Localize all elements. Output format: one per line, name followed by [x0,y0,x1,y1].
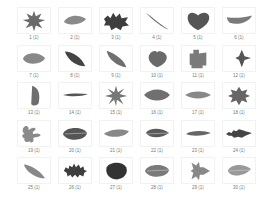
leaf-tile[interactable]: 14 (1) [55,81,95,119]
leaf-thumbnail[interactable] [99,157,133,184]
leaf-label: 5 (1) [178,35,218,40]
leaf-tile[interactable]: 12 (1) [219,44,259,82]
leaf-label: 17 (1) [178,110,218,115]
leaf-tile[interactable]: 29 (1) [178,156,218,194]
leaf-thumbnail[interactable] [181,45,215,72]
leaf-tile[interactable]: 24 (1) [219,119,259,157]
leaf-icon [223,46,255,71]
leaf-label: 29 (1) [178,185,218,190]
leaf-tile[interactable]: 7 (1) [14,44,54,82]
leaf-label: 16 (1) [137,110,177,115]
leaf-label: 27 (1) [96,185,136,190]
leaf-thumbnail[interactable] [140,45,174,72]
leaf-tile[interactable]: 15 (1) [96,81,136,119]
leaf-tile[interactable]: 26 (1) [55,156,95,194]
leaf-thumbnail[interactable] [222,82,256,109]
leaf-icon [223,83,255,108]
leaf-icon [18,83,50,108]
leaf-label: 13 (1) [14,110,54,115]
leaf-thumbnail[interactable] [17,45,51,72]
leaf-label: 6 (1) [219,35,259,40]
leaf-thumbnail[interactable] [140,120,174,147]
leaf-thumbnail[interactable] [140,7,174,34]
leaf-tile[interactable]: 13 (1) [14,81,54,119]
leaf-thumbnail[interactable] [58,82,92,109]
leaf-tile[interactable]: 23 (1) [178,119,218,157]
leaf-tile[interactable]: 25 (1) [14,156,54,194]
leaf-thumbnail[interactable] [222,45,256,72]
leaf-thumbnail[interactable] [140,157,174,184]
leaf-tile[interactable]: 17 (1) [178,81,218,119]
leaf-thumbnail[interactable] [99,7,133,34]
leaf-label: 19 (1) [14,148,54,153]
leaf-thumbnail[interactable] [58,45,92,72]
leaf-tile[interactable]: 3 (1) [96,6,136,44]
leaf-tile[interactable]: 9 (1) [96,44,136,82]
leaf-thumbnail[interactable] [17,82,51,109]
leaf-icon [223,121,255,146]
leaf-tile[interactable]: 2 (1) [55,6,95,44]
leaf-icon [100,8,132,33]
leaf-thumbnail[interactable] [58,120,92,147]
leaf-thumbnail[interactable] [181,120,215,147]
leaf-icon [59,83,91,108]
leaf-tile[interactable]: 21 (1) [96,119,136,157]
leaf-icon [182,8,214,33]
leaf-tile[interactable]: 8 (1) [55,44,95,82]
leaf-thumbnail[interactable] [181,82,215,109]
leaf-tile[interactable]: 6 (1) [219,6,259,44]
leaf-icon [182,83,214,108]
leaf-icon [223,158,255,183]
leaf-icon [100,121,132,146]
leaf-label: 22 (1) [137,148,177,153]
leaf-thumbnail[interactable] [99,120,133,147]
leaf-tile[interactable]: 18 (1) [219,81,259,119]
leaf-icon [141,8,173,33]
leaf-label: 8 (1) [55,73,95,78]
leaf-tile[interactable]: 30 (1) [219,156,259,194]
leaf-icon [141,46,173,71]
leaf-thumbnail[interactable] [17,157,51,184]
leaf-tile[interactable]: 22 (1) [137,119,177,157]
leaf-tile[interactable]: 10 (1) [137,44,177,82]
leaf-icon [18,46,50,71]
leaf-label: 21 (1) [96,148,136,153]
leaf-thumbnail[interactable] [17,120,51,147]
leaf-icon [100,158,132,183]
leaf-tile[interactable]: 20 (1) [55,119,95,157]
leaf-label: 12 (1) [219,73,259,78]
leaf-icon [100,46,132,71]
leaf-thumbnail[interactable] [140,82,174,109]
leaf-tile[interactable]: 28 (1) [137,156,177,194]
leaf-tile[interactable]: 19 (1) [14,119,54,157]
leaf-label: 23 (1) [178,148,218,153]
leaf-tile[interactable]: 4 (1) [137,6,177,44]
leaf-icon [59,46,91,71]
leaf-label: 1 (1) [14,35,54,40]
leaf-thumbnail[interactable] [99,82,133,109]
leaf-icon [182,158,214,183]
leaf-icon [18,121,50,146]
leaf-label: 24 (1) [219,148,259,153]
leaf-thumbnail[interactable] [222,120,256,147]
leaf-label: 30 (1) [219,185,259,190]
leaf-icon [59,158,91,183]
leaf-thumbnail[interactable] [222,157,256,184]
leaf-thumbnail[interactable] [99,45,133,72]
leaf-label: 10 (1) [137,73,177,78]
leaf-tile[interactable]: 1 (1) [14,6,54,44]
leaf-tile[interactable]: 16 (1) [137,81,177,119]
leaf-thumbnail[interactable] [58,7,92,34]
leaf-thumbnail[interactable] [181,157,215,184]
leaf-icon [59,121,91,146]
leaf-label: 28 (1) [137,185,177,190]
leaf-tile[interactable]: 11 (1) [178,44,218,82]
leaf-icon [182,121,214,146]
leaf-thumbnail[interactable] [222,7,256,34]
leaf-tile[interactable]: 27 (1) [96,156,136,194]
leaf-tile[interactable]: 5 (1) [178,6,218,44]
leaf-label: 4 (1) [137,35,177,40]
leaf-thumbnail[interactable] [58,157,92,184]
leaf-thumbnail[interactable] [181,7,215,34]
leaf-thumbnail[interactable] [17,7,51,34]
